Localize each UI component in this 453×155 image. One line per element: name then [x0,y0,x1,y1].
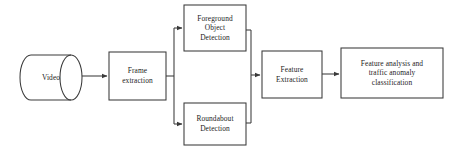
flowchart-canvas: Video Frame extraction Foreground Object… [0,0,453,155]
node-foreground-object-detection-shape [184,5,246,51]
node-video-shape [20,55,82,100]
node-frame-extraction-shape [109,52,166,100]
flowchart-graphics [0,0,453,155]
node-feature-extraction-shape [262,51,322,98]
node-roundabout-detection-shape [184,103,246,145]
node-feature-analysis-classification-shape [341,48,443,98]
